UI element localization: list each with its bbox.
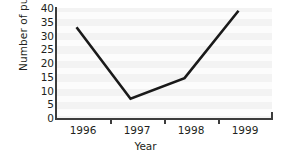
y-axis-tick-labels: 40 35 30 25 20 15 10 5 0 [28, 0, 54, 130]
data-series-line [77, 11, 239, 99]
x-tick-label: 1997 [110, 124, 164, 136]
y-axis-line [55, 7, 57, 119]
y-tick-label: 25 [41, 44, 54, 54]
plot-area [56, 8, 272, 118]
data-line-svg [56, 8, 272, 118]
x-axis-title: Year [0, 140, 291, 152]
x-tick-label: 1996 [56, 124, 110, 136]
x-axis-tick-labels: 1996 1997 1998 1999 [0, 124, 291, 140]
y-tick-label: 20 [41, 58, 54, 68]
line-chart: Number of pupils 40 35 30 25 20 15 10 5 … [0, 0, 291, 159]
x-tick-label: 1998 [164, 124, 218, 136]
x-axis-end-tick [271, 112, 273, 119]
y-tick-label: 30 [41, 31, 54, 41]
y-tick-label: 40 [41, 3, 54, 13]
y-tick-label: 10 [41, 86, 54, 96]
x-tick-label: 1999 [218, 124, 272, 136]
y-tick-label: 15 [41, 72, 54, 82]
y-tick-label: 35 [41, 17, 54, 27]
y-tick-label: 0 [47, 113, 54, 123]
y-tick-label: 5 [47, 99, 54, 109]
